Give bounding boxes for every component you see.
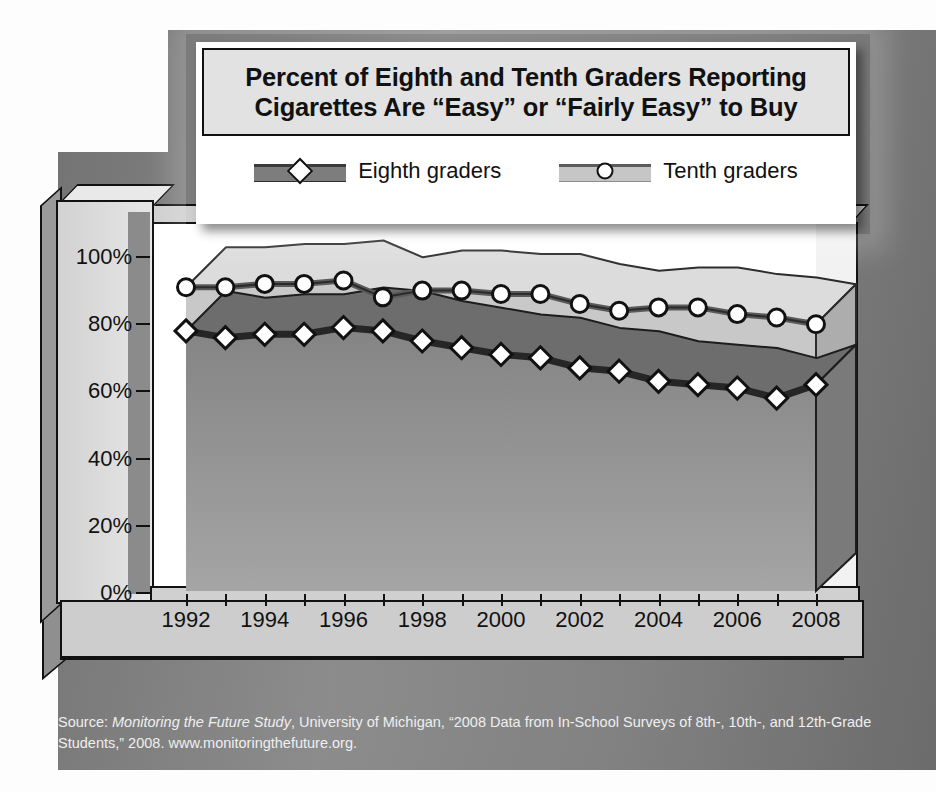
x-axis-tick-mark [383, 594, 385, 606]
white-border-bottom [0, 770, 936, 792]
x-axis-tick-mark [186, 594, 188, 606]
x-axis-tick-mark [737, 594, 739, 606]
x-axis-tick-label: 2004 [634, 607, 683, 633]
y-axis-tick-mark [136, 390, 150, 392]
chart-title-box: Percent of Eighth and Tenth Graders Repo… [202, 48, 850, 136]
plot-right-depth-wall [816, 222, 858, 588]
y-axis-tick-mark [136, 256, 150, 258]
x-axis-tick-mark [777, 594, 779, 606]
source-prefix: Source: [58, 714, 112, 730]
x-axis-tick-label: 1992 [162, 607, 211, 633]
y-axis-tick-mark [136, 592, 150, 594]
y-axis-tick-label: 80% [56, 311, 132, 337]
page-title-line2: Cigarettes Are “Easy” or “Fairly Easy” t… [214, 92, 838, 122]
y-axis-tick-mark [136, 525, 150, 527]
source-study-name: Monitoring the Future Study [112, 714, 291, 730]
x-axis-tick-mark [659, 594, 661, 606]
y-axis-tick-mark [136, 458, 150, 460]
x-axis-tick-mark [265, 594, 267, 606]
y-axis-tick-label: 60% [56, 378, 132, 404]
source-caption: Source: Monitoring the Future Study, Uni… [58, 712, 888, 754]
legend-item-eighth-graders[interactable]: Eighth graders [254, 158, 501, 184]
x-axis-tick-mark [225, 594, 227, 606]
legend-item-tenth-graders[interactable]: Tenth graders [559, 158, 798, 184]
y-axis-tick-mark [136, 323, 150, 325]
y-axis-tick-label: 20% [56, 513, 132, 539]
page-background: 0%20%40%60%80%100%1992199419961998200020… [0, 0, 936, 792]
x-axis-tick-mark [304, 594, 306, 606]
x-axis-tick-mark [816, 594, 818, 606]
x-axis-tick-label: 1994 [240, 607, 289, 633]
white-border-left [0, 0, 36, 792]
header-panel: Percent of Eighth and Tenth Graders Repo… [196, 42, 856, 224]
legend-label-eighth-graders: Eighth graders [358, 158, 501, 184]
white-border-top [168, 0, 936, 30]
x-axis-tick-mark [580, 594, 582, 606]
y-axis-tick-label: 40% [56, 446, 132, 472]
x-axis-tick-label: 2000 [477, 607, 526, 633]
x-axis-tick-mark [462, 594, 464, 606]
y-axis-tick-label: 100% [56, 244, 132, 270]
x-axis-tick-mark [422, 594, 424, 606]
legend-swatch-eighth-graders [254, 160, 346, 182]
plot-area [146, 222, 820, 588]
legend-swatch-tenth-graders [559, 160, 651, 182]
circle-marker-icon [597, 163, 614, 180]
x-axis-tick-mark [698, 594, 700, 606]
x-axis-tick-mark [619, 594, 621, 606]
x-axis-tick-label: 2006 [713, 607, 762, 633]
y-axis-tick-label: 0% [56, 580, 132, 606]
legend-label-tenth-graders: Tenth graders [663, 158, 798, 184]
x-axis-tick-mark [540, 594, 542, 606]
x-axis-tick-label: 2008 [792, 607, 841, 633]
white-border-left-upper [36, 0, 168, 152]
x-axis-tick-mark [501, 594, 503, 606]
chart-legend: Eighth graders Tenth graders [196, 158, 856, 184]
x-axis-tick-label: 1996 [319, 607, 368, 633]
x-axis-tick-label: 1998 [398, 607, 447, 633]
x-axis-tick-mark [344, 594, 346, 606]
x-axis-tick-label: 2002 [555, 607, 604, 633]
page-title-line1: Percent of Eighth and Tenth Graders Repo… [214, 62, 838, 92]
